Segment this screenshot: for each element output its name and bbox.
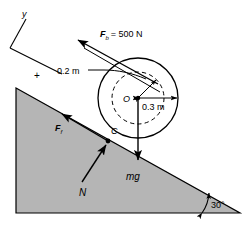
y-axis-label: y	[21, 9, 27, 19]
applied-force-value: = 500 N	[111, 29, 143, 39]
physics-diagram-figure: y + O 0.3 m 0.2 m Fb= 500 N C mg N	[0, 0, 250, 227]
plus-sign-label: +	[34, 70, 40, 81]
inner-radius-label: 0.2 m	[57, 66, 80, 76]
contact-point-label: C	[111, 126, 118, 136]
y-axis-line	[10, 19, 26, 48]
normal-force-label: N	[79, 187, 87, 198]
applied-force-label: Fb= 500 N	[100, 29, 143, 41]
coordinate-axes	[10, 19, 62, 74]
diagram-canvas: y + O 0.3 m 0.2 m Fb= 500 N C mg N	[0, 0, 250, 227]
outer-radius-label: 0.3 m	[142, 102, 165, 112]
center-label: O	[123, 94, 130, 104]
weight-force-label: mg	[126, 171, 140, 182]
incline-angle-label: 30°	[211, 200, 225, 210]
applied-force-subscript: b	[106, 35, 110, 41]
